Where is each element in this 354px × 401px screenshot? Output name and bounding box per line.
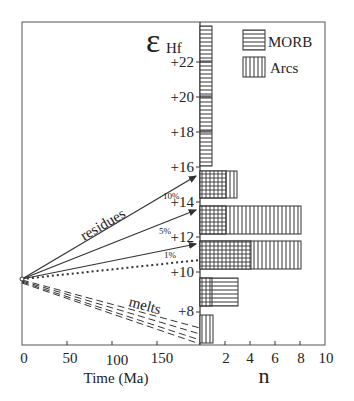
svg-text:6: 6 [271,350,279,366]
legend-swatch-arcs [243,57,265,77]
morb-bars-top [200,26,212,166]
label-10pct: 10% [163,191,180,201]
legend: MORB Arcs [243,30,312,77]
svg-text:+20: +20 [171,89,194,105]
legend-swatch-morb [243,30,265,50]
y-axis-label: ε [146,22,160,59]
x-ticks [67,341,300,345]
svg-text:100: 100 [106,352,129,368]
bin-14-16 [200,171,237,198]
svg-text:4: 4 [246,350,254,366]
origin-point [20,277,24,281]
svg-text:+18: +18 [171,124,194,140]
svg-text:50: 50 [63,350,78,366]
bin-8-10 [200,278,238,306]
label-1pct: 1% [164,250,177,260]
melt-lines [22,280,200,344]
time-tick-labels: 0 50 100 150 [20,350,173,368]
svg-text:+8: +8 [178,303,194,319]
svg-text:+16: +16 [171,159,195,175]
y-axis-label-sub: Hf [166,40,182,56]
svg-text:2: 2 [222,350,230,366]
svg-text:8: 8 [297,350,305,366]
svg-text:150: 150 [151,350,174,366]
y-tick-labels: +8 +10 +12 +14 +16 +18 +20 +22 [171,54,195,319]
x-axis-label-n: n [259,363,270,388]
residues-label: residues [78,205,129,244]
svg-text:+22: +22 [171,54,194,70]
svg-text:0: 0 [20,350,28,366]
legend-label-arcs: Arcs [270,60,298,76]
n-tick-labels: 2 4 6 8 10 [222,350,333,366]
bin-6-8 [200,315,213,343]
svg-text:10: 10 [319,350,334,366]
bin-12-14 [200,206,301,234]
x-axis-label-time: Time (Ma) [84,370,149,387]
legend-label-morb: MORB [268,34,312,50]
label-5pct: 5% [159,226,172,236]
svg-text:+12: +12 [171,229,194,245]
svg-text:+10: +10 [171,264,194,280]
bin-10-12 [200,241,301,269]
chart: +8 +10 +12 +14 +16 +18 +20 +22 ε Hf [0,0,354,401]
